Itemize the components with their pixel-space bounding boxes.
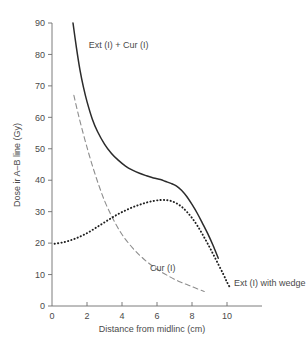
chart-series bbox=[55, 23, 231, 292]
y-axis-title: Dose ir A–B line (Gy) bbox=[12, 123, 22, 207]
dose-distribution-chart: 0102030405060708090 Dose ir A–B line (Gy… bbox=[0, 0, 307, 346]
x-tick-label-4: 4 bbox=[119, 311, 124, 321]
x-axis-ticks bbox=[87, 302, 227, 306]
x-tick-label-6: 6 bbox=[154, 311, 159, 321]
y-tick-label-0: 0 bbox=[40, 301, 45, 311]
y-tick-label-80: 80 bbox=[35, 50, 45, 60]
x-axis-tick-labels: 0246810 bbox=[49, 311, 232, 321]
x-tick-label-10: 10 bbox=[222, 311, 232, 321]
y-tick-label-30: 30 bbox=[35, 207, 45, 217]
y-tick-label-70: 70 bbox=[35, 81, 45, 91]
series-label-ext-plus-cur: Ext (I) + Cur (I) bbox=[89, 40, 149, 50]
y-axis-tick-labels: 0102030405060708090 bbox=[35, 18, 45, 311]
series-annotations: Ext (I) + Cur (I) Cur (I) Ext (I) with w… bbox=[89, 40, 306, 287]
chart-page: 0102030405060708090 Dose ir A–B line (Gy… bbox=[0, 0, 307, 346]
y-tick-label-60: 60 bbox=[35, 113, 45, 123]
x-tick-label-0: 0 bbox=[49, 311, 54, 321]
x-tick-label-8: 8 bbox=[189, 311, 194, 321]
series-label-ext-with-wedge: Ext (I) with wedge bbox=[234, 278, 306, 288]
x-tick-label-2: 2 bbox=[84, 311, 89, 321]
y-tick-label-40: 40 bbox=[35, 175, 45, 185]
y-tick-label-90: 90 bbox=[35, 18, 45, 28]
y-tick-label-10: 10 bbox=[35, 270, 45, 280]
y-tick-label-20: 20 bbox=[35, 238, 45, 248]
y-axis-ticks bbox=[48, 23, 52, 306]
y-axis: 0102030405060708090 Dose ir A–B line (Gy… bbox=[12, 18, 52, 311]
series-label-cur: Cur (I) bbox=[150, 263, 176, 273]
y-tick-label-50: 50 bbox=[35, 144, 45, 154]
series-ext-with-wedge-line bbox=[55, 200, 231, 288]
x-axis-title: Distance from midlinc (cm) bbox=[99, 324, 206, 334]
x-axis: 0246810 Distance from midlinc (cm) bbox=[49, 302, 262, 334]
